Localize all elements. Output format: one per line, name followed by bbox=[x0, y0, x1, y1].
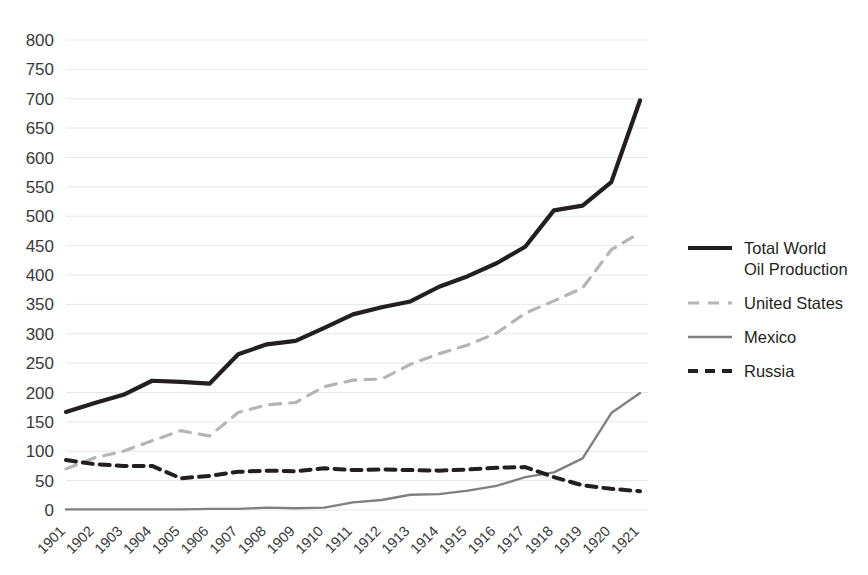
y-axis-tick-label: 100 bbox=[26, 442, 54, 461]
series-line-0 bbox=[66, 101, 640, 412]
y-axis-tick-label: 350 bbox=[26, 295, 54, 314]
legend-label-0: Total World bbox=[744, 239, 826, 257]
series-line-1 bbox=[66, 233, 640, 469]
x-axis-tick-label: 1918 bbox=[522, 523, 556, 557]
chart-legend: Total WorldOil ProductionUnited StatesMe… bbox=[688, 239, 848, 380]
y-axis-tick-label: 400 bbox=[26, 266, 54, 285]
x-axis-tick-label: 1921 bbox=[608, 523, 642, 557]
series-line-3 bbox=[66, 460, 640, 491]
y-axis-tick-label: 500 bbox=[26, 207, 54, 226]
x-axis-tick-label: 1909 bbox=[264, 523, 298, 557]
x-axis-tick-label: 1903 bbox=[91, 523, 125, 557]
x-axis-tick-label: 1908 bbox=[235, 523, 269, 557]
y-axis-tick-label: 800 bbox=[26, 31, 54, 50]
y-axis-tick-label: 650 bbox=[26, 119, 54, 138]
legend-label-2: Mexico bbox=[744, 328, 796, 346]
x-axis-tick-labels: 1901190219031904190519061907190819091910… bbox=[34, 523, 642, 557]
y-axis-tick-labels: 0501001502002503003504004505005506006507… bbox=[26, 31, 54, 520]
y-axis-tick-label: 600 bbox=[26, 149, 54, 168]
x-axis-tick-label: 1914 bbox=[407, 523, 441, 557]
y-axis-tick-label: 450 bbox=[26, 237, 54, 256]
x-axis-tick-label: 1913 bbox=[378, 523, 412, 557]
y-axis-tick-label: 50 bbox=[35, 472, 54, 491]
x-axis-tick-label: 1920 bbox=[579, 523, 613, 557]
x-axis-tick-label: 1917 bbox=[493, 523, 527, 557]
y-axis-tick-label: 250 bbox=[26, 354, 54, 373]
x-axis-tick-label: 1910 bbox=[292, 523, 326, 557]
x-axis-tick-label: 1902 bbox=[63, 523, 97, 557]
x-axis-tick-label: 1911 bbox=[322, 523, 355, 556]
y-axis-tick-label: 0 bbox=[45, 501, 54, 520]
x-axis-tick-label: 1919 bbox=[551, 523, 585, 557]
legend-label-3: Russia bbox=[744, 362, 795, 380]
x-axis-tick-label: 1915 bbox=[436, 523, 470, 557]
x-axis-tick-label: 1901 bbox=[34, 523, 68, 557]
y-axis-tick-label: 300 bbox=[26, 325, 54, 344]
line-chart: 0501001502002503003504004505005506006507… bbox=[0, 0, 868, 575]
y-axis-tick-label: 200 bbox=[26, 384, 54, 403]
y-axis-tick-label: 150 bbox=[26, 413, 54, 432]
legend-label-1: United States bbox=[744, 294, 843, 312]
y-axis-tick-label: 550 bbox=[26, 178, 54, 197]
legend-label-0-line2: Oil Production bbox=[744, 260, 848, 278]
y-axis-tick-label: 700 bbox=[26, 90, 54, 109]
x-axis-tick-label: 1905 bbox=[149, 523, 183, 557]
x-axis-tick-label: 1906 bbox=[177, 523, 211, 557]
x-axis-tick-label: 1916 bbox=[464, 523, 498, 557]
series-group bbox=[66, 101, 640, 510]
x-axis-tick-label: 1912 bbox=[350, 523, 384, 557]
y-axis-tick-label: 750 bbox=[26, 60, 54, 79]
chart-canvas: 0501001502002503003504004505005506006507… bbox=[0, 0, 868, 575]
x-axis-tick-label: 1904 bbox=[120, 523, 154, 557]
x-axis-tick-label: 1907 bbox=[206, 523, 240, 557]
